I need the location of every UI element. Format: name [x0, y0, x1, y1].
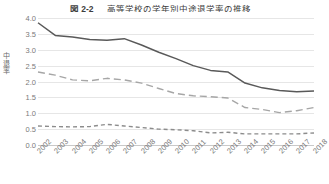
y-axis-tick-label: 2.0 — [12, 78, 36, 87]
figure-number: 図 2-2 — [70, 4, 94, 12]
y-axis-tick-label: 1.5 — [12, 93, 36, 102]
y-axis-tick-label: 1.0 — [12, 109, 36, 118]
series-line — [38, 124, 314, 134]
y-axis-tick-label: 0.5 — [12, 125, 36, 134]
y-axis-tick-label: 3.0 — [12, 46, 36, 55]
y-axis-label: 中 退 率 — [1, 52, 11, 75]
y-axis-tick-label: 2.5 — [12, 62, 36, 71]
y-axis-tick-label: 3.5 — [12, 30, 36, 39]
series-line — [38, 23, 314, 92]
y-axis-label-char-1: 中 — [1, 52, 11, 60]
y-axis-tick-label: 4.0 — [12, 14, 36, 23]
figure-title-bar: 図 2-2 高等学校の学年別中途退学率の推移 — [0, 0, 321, 12]
y-axis-label-char-3: 率 — [1, 67, 11, 75]
page-title: 高等学校の学年別中途退学率の推移 — [107, 4, 251, 12]
series-line — [38, 72, 314, 113]
y-axis-tick-label: 0.0 — [12, 141, 36, 150]
plot-area — [38, 18, 314, 145]
